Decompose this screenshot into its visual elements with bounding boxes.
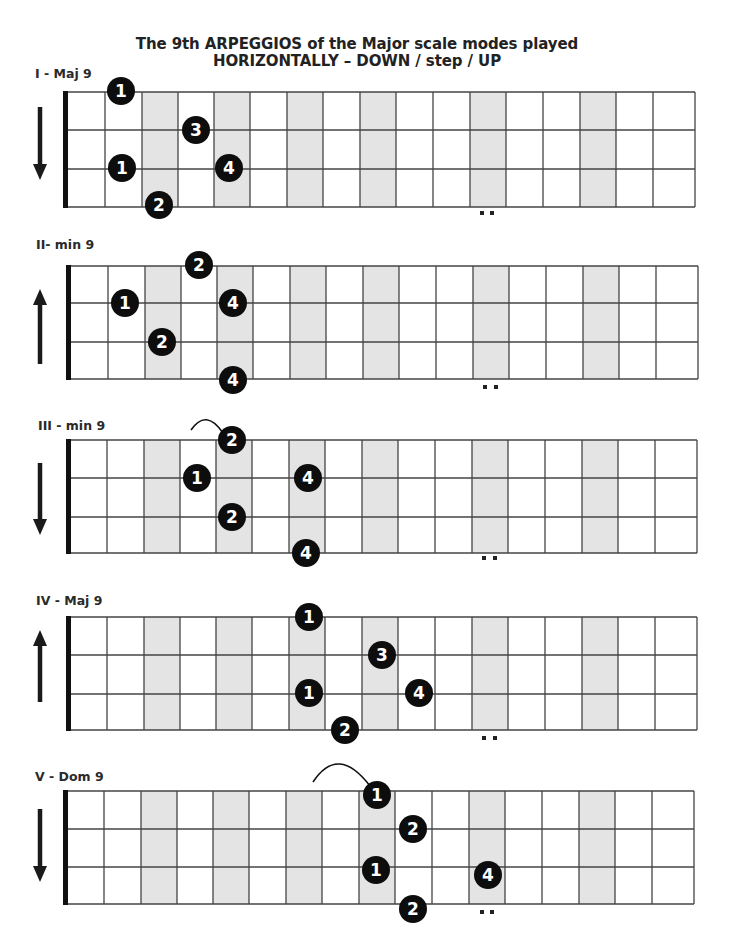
- arrow-down-icon: [33, 107, 47, 180]
- svg-text:4: 4: [300, 543, 312, 563]
- shaded-fret: [472, 617, 508, 730]
- shaded-fret: [216, 617, 252, 730]
- fretboard-diagram-1: 13142: [33, 77, 695, 219]
- shaded-fret: [362, 617, 398, 730]
- shaded-fret: [289, 440, 325, 553]
- finger-dot-1: 1: [363, 781, 391, 809]
- svg-text:1: 1: [370, 860, 382, 880]
- svg-text:1: 1: [116, 158, 128, 178]
- shaded-fret: [286, 791, 322, 904]
- fret-marker-dot: [494, 385, 498, 389]
- finger-dot-1: 1: [107, 77, 135, 105]
- svg-text:2: 2: [339, 720, 351, 740]
- svg-text:3: 3: [190, 120, 202, 140]
- fret-marker-dot: [480, 910, 484, 914]
- svg-text:4: 4: [227, 370, 239, 390]
- shaded-fret: [145, 266, 181, 379]
- fretboard-diagram-3: 21424: [33, 420, 697, 567]
- svg-text:4: 4: [482, 865, 494, 885]
- finger-dot-1: 1: [111, 289, 139, 317]
- nut: [63, 91, 68, 208]
- finger-dot-2: 2: [145, 191, 173, 219]
- svg-text:1: 1: [303, 607, 315, 627]
- arrow-down-icon: [33, 463, 47, 535]
- fretboard-diagram-4: 13142: [33, 603, 697, 744]
- svg-text:2: 2: [156, 332, 168, 352]
- shaded-fret: [141, 791, 177, 904]
- finger-dot-2: 2: [218, 426, 246, 454]
- finger-dot-1: 1: [183, 464, 211, 492]
- arrow-up-icon: [33, 289, 47, 364]
- svg-text:2: 2: [193, 255, 205, 275]
- svg-text:1: 1: [371, 785, 383, 805]
- fretboard-diagrams: 1314221424214241314212142: [0, 0, 741, 939]
- svg-text:2: 2: [226, 430, 238, 450]
- shaded-fret: [287, 92, 323, 207]
- fretboard-diagram-5: 12142: [33, 764, 694, 923]
- svg-text:1: 1: [119, 293, 131, 313]
- nut: [63, 790, 68, 905]
- nut: [66, 439, 71, 554]
- finger-dot-2: 2: [399, 895, 427, 923]
- finger-dot-2: 2: [331, 716, 359, 744]
- svg-text:4: 4: [227, 293, 239, 313]
- finger-dot-4: 4: [405, 679, 433, 707]
- svg-text:2: 2: [153, 195, 165, 215]
- shaded-fret: [142, 92, 178, 207]
- shaded-fret: [217, 266, 253, 379]
- fret-marker-dot: [490, 910, 494, 914]
- shaded-fret: [144, 617, 180, 730]
- finger-dot-4: 4: [219, 289, 247, 317]
- shaded-fret: [213, 791, 249, 904]
- arrow-down-icon: [33, 809, 47, 882]
- fret-marker-dot: [482, 736, 486, 740]
- finger-dot-1: 1: [295, 679, 323, 707]
- finger-dot-4: 4: [294, 464, 322, 492]
- shaded-fret: [583, 266, 619, 379]
- svg-text:2: 2: [407, 819, 419, 839]
- fret-marker-dot: [480, 211, 484, 215]
- fret-marker-dot: [490, 211, 494, 215]
- svg-text:4: 4: [302, 468, 314, 488]
- shaded-fret: [363, 266, 399, 379]
- finger-dot-4: 4: [292, 539, 320, 567]
- finger-dot-4: 4: [219, 366, 247, 394]
- shaded-fret: [290, 266, 326, 379]
- fret-marker-dot: [482, 556, 486, 560]
- finger-dot-4: 4: [215, 154, 243, 182]
- shaded-fret: [214, 92, 250, 207]
- svg-text:4: 4: [413, 683, 425, 703]
- finger-dot-1: 1: [295, 603, 323, 631]
- shaded-fret: [216, 440, 252, 553]
- shaded-fret: [579, 791, 615, 904]
- slide-arc: [313, 764, 370, 786]
- finger-dot-3: 3: [182, 116, 210, 144]
- finger-dot-1: 1: [108, 154, 136, 182]
- finger-dot-1: 1: [362, 856, 390, 884]
- shaded-fret: [360, 92, 396, 207]
- svg-text:1: 1: [191, 468, 203, 488]
- finger-dot-4: 4: [474, 861, 502, 889]
- shaded-fret: [289, 617, 325, 730]
- shaded-fret: [473, 266, 509, 379]
- slide-arc: [191, 420, 223, 433]
- finger-dot-2: 2: [185, 251, 213, 279]
- svg-text:3: 3: [376, 645, 388, 665]
- shaded-fret: [144, 440, 180, 553]
- shaded-fret: [362, 440, 398, 553]
- fretboard-diagram-2: 21424: [33, 251, 698, 394]
- shaded-fret: [580, 92, 616, 207]
- fret-marker-dot: [483, 385, 487, 389]
- fret-marker-dot: [493, 736, 497, 740]
- shaded-fret: [582, 617, 618, 730]
- shaded-fret: [582, 440, 618, 553]
- finger-dot-2: 2: [399, 815, 427, 843]
- svg-text:1: 1: [303, 683, 315, 703]
- svg-text:2: 2: [407, 899, 419, 919]
- svg-text:4: 4: [223, 158, 235, 178]
- finger-dot-2: 2: [148, 328, 176, 356]
- shaded-fret: [472, 440, 508, 553]
- finger-dot-3: 3: [368, 641, 396, 669]
- svg-text:2: 2: [226, 507, 238, 527]
- nut: [66, 265, 71, 380]
